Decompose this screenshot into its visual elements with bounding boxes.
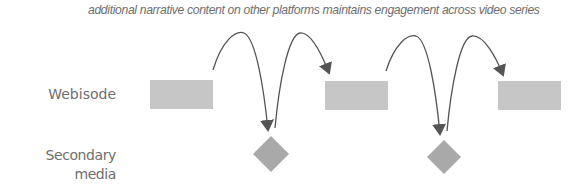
arrow-secondary2-to-webisode3 <box>447 36 503 131</box>
arrow-secondary1-to-webisode2 <box>275 33 329 128</box>
flow-diagram <box>0 0 582 187</box>
webisode-box-2 <box>325 81 388 110</box>
arrow-webisode1-to-secondary1 <box>213 32 268 130</box>
secondary-media-diamond-1 <box>253 136 289 172</box>
arrow-webisode2-to-secondary2 <box>386 36 440 134</box>
webisode-box-1 <box>150 80 213 109</box>
webisode-box-3 <box>498 81 561 110</box>
secondary-media-diamond-2 <box>427 140 461 174</box>
